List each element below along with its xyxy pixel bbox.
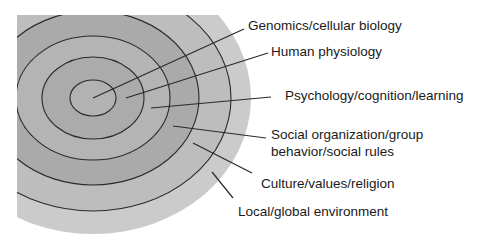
label-genomics: Genomics/cellular biology: [248, 18, 402, 34]
label-culture: Culture/values/religion: [261, 176, 395, 192]
label-social-line1: Social organization/group: [271, 127, 423, 143]
label-social-line2: behavior/social rules: [271, 144, 394, 160]
label-psychology: Psychology/cognition/learning: [285, 88, 464, 104]
label-environment: Local/global environment: [238, 204, 388, 220]
label-physiology: Human physiology: [271, 44, 382, 60]
